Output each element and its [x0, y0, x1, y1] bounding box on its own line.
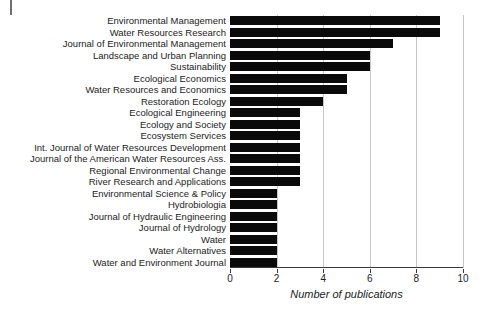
bar-row [230, 165, 463, 177]
bar [230, 212, 277, 221]
category-label: Regional Environmental Change [0, 165, 226, 176]
bar-row [230, 130, 463, 142]
category-label: Journal of Hydrology [0, 222, 226, 233]
bar [230, 97, 323, 106]
category-label: Environmental Management [0, 15, 226, 26]
page-edge-tick-icon [10, 0, 12, 15]
bar-row [230, 50, 463, 62]
bar-row [230, 61, 463, 73]
bar-row [230, 38, 463, 50]
bar [230, 120, 300, 129]
category-label: Hydrobiologia [0, 199, 226, 210]
plot-area [230, 15, 463, 268]
category-label: Sustainability [0, 61, 226, 72]
x-tick-label: 0 [227, 273, 233, 285]
category-label: Journal of Hydraulic Engineering [0, 211, 226, 222]
publications-bar-chart-figure: Environmental ManagementWater Resources … [0, 0, 487, 313]
x-tick-label: 8 [414, 273, 420, 285]
category-label: Environmental Science & Policy [0, 188, 226, 199]
bar [230, 28, 440, 37]
bar-row [230, 96, 463, 108]
bar [230, 16, 440, 25]
bar [230, 108, 300, 117]
bar [230, 166, 300, 175]
bar [230, 39, 393, 48]
bar-row [230, 107, 463, 119]
category-label: Ecological Economics [0, 73, 226, 84]
category-label: Restoration Ecology [0, 96, 226, 107]
category-label: River Research and Applications [0, 176, 226, 187]
bar [230, 62, 370, 71]
bar-row [230, 245, 463, 257]
bar [230, 200, 277, 209]
bar [230, 246, 277, 255]
category-label: Journal of the American Water Resources … [0, 153, 226, 164]
bar [230, 74, 347, 83]
x-tick-label: 2 [274, 273, 280, 285]
bar-row [230, 153, 463, 165]
category-label: Water Alternatives [0, 245, 226, 256]
bar [230, 85, 347, 94]
x-axis-line [230, 267, 463, 268]
bar-row [230, 84, 463, 96]
bar [230, 131, 300, 140]
bar-row [230, 27, 463, 39]
category-label: Water and Environment Journal [0, 257, 226, 268]
bar-row [230, 211, 463, 223]
category-label: Water [0, 234, 226, 245]
x-tick-label: 10 [457, 273, 468, 285]
gridline-10 [463, 15, 464, 268]
bar [230, 154, 300, 163]
category-label: Journal of Environmental Management [0, 38, 226, 49]
category-label: Ecological Engineering [0, 107, 226, 118]
bar [230, 235, 277, 244]
category-label: Water Resources Research [0, 27, 226, 38]
bar [230, 189, 277, 198]
bar [230, 143, 300, 152]
bar-row [230, 119, 463, 131]
x-axis-title: Number of publications [230, 288, 463, 300]
bar [230, 177, 300, 186]
category-label: Water Resources and Economics [0, 84, 226, 95]
category-label: Ecosystem Services [0, 130, 226, 141]
bar-row [230, 73, 463, 85]
x-axis-ticks: 0246810 [230, 269, 463, 285]
category-label: Int. Journal of Water Resources Developm… [0, 142, 226, 153]
bar-row [230, 15, 463, 27]
bar [230, 258, 277, 267]
category-label: Landscape and Urban Planning [0, 50, 226, 61]
bar-row [230, 176, 463, 188]
category-label: Ecology and Society [0, 119, 226, 130]
bar-row [230, 222, 463, 234]
bar-row [230, 199, 463, 211]
x-tick-label: 6 [367, 273, 373, 285]
bar-row [230, 142, 463, 154]
bar [230, 51, 370, 60]
bar-row [230, 234, 463, 246]
bar [230, 223, 277, 232]
category-axis-labels: Environmental ManagementWater Resources … [0, 15, 226, 268]
x-tick-label: 4 [320, 273, 326, 285]
bar-row [230, 188, 463, 200]
